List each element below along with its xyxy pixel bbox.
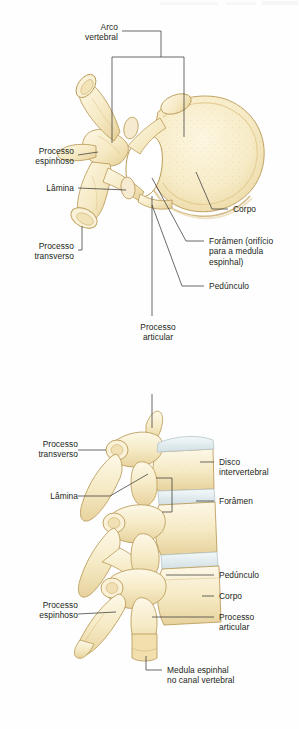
label-corpo-superior: Corpo xyxy=(233,204,256,214)
leader-arco-vertebral xyxy=(122,31,161,57)
spine-lateral-view xyxy=(74,411,221,661)
label-arco-vertebral: Arco vertebral xyxy=(85,22,118,43)
anatomy-figure-page: Arco vertebral Processo espinhoso Lâmina… xyxy=(0,0,299,729)
label-processo-transverso-lateral: Processo transverso xyxy=(38,439,78,460)
label-foramen-lateral: Forâmen xyxy=(219,496,253,506)
label-disco-intervertebral: Disco intervertebral xyxy=(219,457,269,478)
label-lamina-lateral: Lâmina xyxy=(50,491,78,501)
label-lamina-superior: Lâmina xyxy=(46,183,74,193)
intervertebral-disc-1 xyxy=(157,436,214,452)
label-processo-articular-lateral: Processo articular xyxy=(219,612,254,633)
label-processo-espinhoso-lateral: Processo espinhoso xyxy=(39,600,78,621)
label-processo-articular-superior: Processo articular xyxy=(128,322,188,343)
label-pedunculo-superior: Pedúnculo xyxy=(209,281,249,291)
label-corpo-lateral: Corpo xyxy=(219,591,242,601)
label-medula-espinhal: Medula espinhal no canal vertebral xyxy=(167,665,234,686)
label-processo-espinhoso-superior: Processo espinhoso xyxy=(35,146,74,167)
label-processo-transverso-superior: Processo transverso xyxy=(34,241,74,262)
leader-processo-transverso-sup xyxy=(78,226,82,250)
scan-artifact xyxy=(160,1,298,5)
label-foramen-superior: Forâmen (orifício para a medula espinhal… xyxy=(209,236,273,267)
label-pedunculo-lateral: Pedúnculo xyxy=(219,570,259,580)
